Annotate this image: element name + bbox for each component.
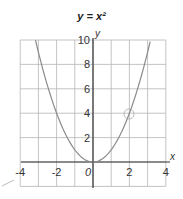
x-tick-label: -2: [52, 166, 62, 178]
x-axis-label: x: [169, 151, 176, 162]
x-tick-label: 0: [85, 166, 92, 178]
y-tick-label: 6: [84, 83, 90, 95]
y-tick-label: 2: [84, 132, 90, 144]
parabola-chart: y x 246810 -4-2024: [0, 0, 183, 199]
pencil-mark: [2, 180, 14, 186]
x-tick-label: 4: [163, 166, 169, 178]
y-tick-label: 8: [84, 58, 90, 70]
y-tick-label: 10: [78, 34, 90, 46]
y-axis-label: y: [94, 28, 101, 39]
x-tick-label: 2: [126, 166, 132, 178]
x-tick-label: -4: [15, 166, 25, 178]
y-tick-label: 4: [84, 107, 90, 119]
